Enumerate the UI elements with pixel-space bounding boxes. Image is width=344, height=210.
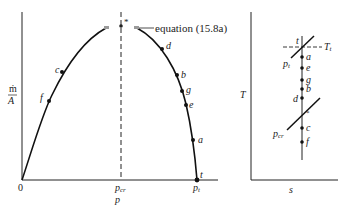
svg-text:t: t xyxy=(200,169,203,180)
svg-text:f: f xyxy=(306,136,310,147)
critical-star-label: * xyxy=(124,17,129,27)
svg-text:d: d xyxy=(293,93,299,104)
right-y-axis-title: T xyxy=(240,89,247,100)
left-diagram: * equation (15.8a) f c d b g e xyxy=(7,12,227,205)
origin-label: 0 xyxy=(18,182,23,193)
svg-text:d: d xyxy=(166,40,172,51)
left-branch-curve xyxy=(22,28,106,180)
mass-flux-label-numerator: ṁ xyxy=(9,83,17,94)
curve-point-d: d xyxy=(160,40,172,51)
curve-point-g: g xyxy=(180,84,191,95)
tank-pressure-tick-label: pt xyxy=(192,182,201,194)
svg-text:a: a xyxy=(306,51,311,62)
diagram-canvas: * equation (15.8a) f c d b g e xyxy=(0,0,344,210)
svg-text:e: e xyxy=(306,62,311,73)
svg-text:e: e xyxy=(189,99,194,110)
equation-label: equation (15.8a) xyxy=(155,22,227,35)
svg-text:f: f xyxy=(40,92,44,103)
svg-text:c: c xyxy=(306,122,311,133)
right-diagram: T s Tt t pt pcr * a e g b d xyxy=(240,12,338,195)
critical-pressure-isobar-label: pcr xyxy=(272,128,284,140)
curve-point-b: b xyxy=(175,69,186,80)
peak-marker-right xyxy=(134,26,139,29)
right-x-axis-title: s xyxy=(289,184,293,195)
svg-text:b: b xyxy=(306,83,311,94)
critical-point-marker xyxy=(119,24,123,28)
svg-text:b: b xyxy=(181,69,186,80)
tank-temperature-label: Tt xyxy=(324,41,333,53)
critical-star-label: * xyxy=(306,109,310,117)
tank-state-label: t xyxy=(296,35,299,46)
curve-point-f: f xyxy=(40,92,51,103)
mass-flux-label-denominator: A xyxy=(7,95,15,106)
critical-pressure-isobar xyxy=(287,98,320,130)
left-x-axis-title: p xyxy=(114,194,120,205)
svg-text:a: a xyxy=(198,134,203,145)
svg-text:g: g xyxy=(186,84,191,95)
critical-pressure-tick-label: pcr xyxy=(114,182,126,194)
svg-text:c: c xyxy=(55,64,60,75)
tank-pressure-isobar-label: pt xyxy=(282,58,291,70)
peak-marker-left xyxy=(104,26,109,29)
curve-point-c: c xyxy=(55,64,64,75)
